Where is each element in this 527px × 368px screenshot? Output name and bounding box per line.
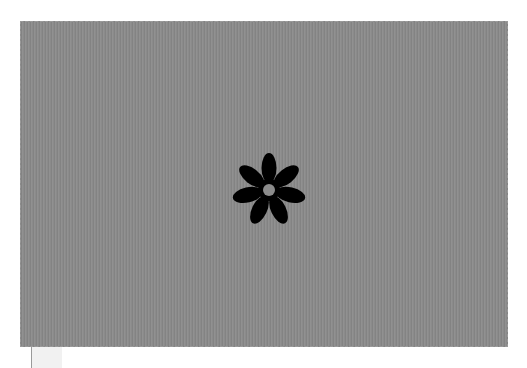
flower-icon bbox=[232, 153, 306, 227]
below-panel bbox=[32, 347, 62, 368]
stage: seven-petal-flower-icon bbox=[0, 0, 527, 368]
